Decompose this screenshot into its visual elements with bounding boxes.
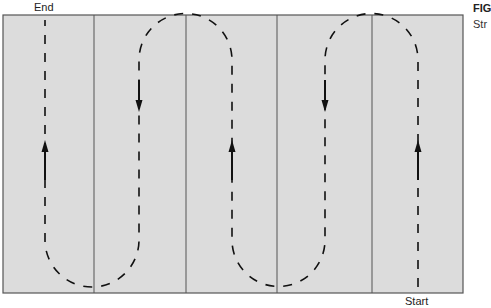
serpentine-diagram — [0, 0, 489, 308]
